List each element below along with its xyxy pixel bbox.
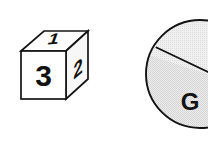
pie-sector-label: G xyxy=(181,88,200,115)
figure-canvas: 3 1 2 G xyxy=(0,0,208,155)
cube-front-digit: 3 xyxy=(35,59,52,92)
